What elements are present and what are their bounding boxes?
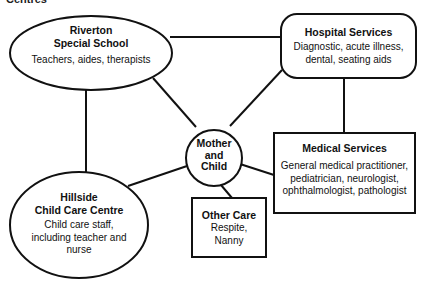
node-other: Other Care Respite, Nanny xyxy=(192,209,266,247)
node-center-title-1: Mother xyxy=(186,138,242,150)
node-hospital-desc-1: Diagnostic, acute illness, xyxy=(281,41,416,54)
node-other-title: Other Care xyxy=(192,209,266,222)
node-hospital: Hospital Services Diagnostic, acute illn… xyxy=(281,26,416,66)
node-medical: Medical Services General medical practit… xyxy=(272,142,417,198)
node-other-desc-1: Respite, xyxy=(192,222,266,235)
node-medical-desc-3: ophthalmologist, pathologist xyxy=(272,185,417,198)
node-riverton-title-2: Special School xyxy=(14,37,168,50)
edge-hospital-center xyxy=(230,70,282,126)
edge-center-medical xyxy=(240,164,274,175)
node-medical-desc-1: General medical practitioner, xyxy=(272,160,417,173)
node-hillside-desc-2: including teacher and xyxy=(14,232,144,245)
node-hillside-desc-3: nurse xyxy=(14,244,144,257)
node-riverton-title-1: Riverton xyxy=(14,24,168,37)
node-hillside-desc-1: Child care staff, xyxy=(14,219,144,232)
edge-riverton-center xyxy=(153,78,196,127)
node-hillside: Hillside Child Care Centre Child care st… xyxy=(14,191,144,257)
node-medical-desc-2: pediatrician, neurologist, xyxy=(272,173,417,186)
node-center: Mother and Child xyxy=(186,138,242,173)
node-medical-title: Medical Services xyxy=(272,142,417,155)
node-other-desc-2: Nanny xyxy=(192,235,266,248)
node-riverton-desc-1: Teachers, aides, therapists xyxy=(14,54,168,67)
edge-center-other xyxy=(221,185,232,198)
node-riverton: Riverton Special School Teachers, aides,… xyxy=(14,24,168,67)
care-network-diagram: Centres Riverton Special School Teachers… xyxy=(0,0,428,288)
node-hillside-title-2: Child Care Centre xyxy=(14,204,144,217)
node-hillside-title-1: Hillside xyxy=(14,191,144,204)
node-hospital-title: Hospital Services xyxy=(281,26,416,39)
node-hospital-desc-2: dental, seating aids xyxy=(281,54,416,67)
node-center-title-3: Child xyxy=(186,161,242,173)
edge-center-hillside xyxy=(128,166,187,186)
